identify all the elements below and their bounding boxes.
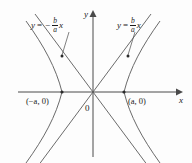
left-eq-numerator: b	[52, 17, 58, 25]
left-eq-minus-sign: −	[44, 21, 51, 30]
leader-line-left	[62, 32, 69, 55]
origin-label: 0	[85, 104, 90, 113]
hyperbola-canvas	[0, 0, 192, 163]
vertex-dot-right	[122, 90, 125, 93]
left-eq-x: x	[59, 21, 63, 30]
leader-dot-right	[127, 55, 130, 58]
hyperbola-figure: y = − b a x y = b a x y x (−a, 0) (a, 0)…	[0, 0, 192, 163]
leader-dot-left	[61, 55, 64, 58]
right-eq-numerator: b	[130, 17, 136, 25]
left-eq-denominator: a	[52, 25, 58, 34]
right-eq-denominator: a	[130, 25, 136, 34]
left-eq-equals: =	[36, 21, 43, 30]
left-eq-fraction: b a	[52, 17, 58, 34]
leader-line-group	[62, 32, 135, 55]
left-vertex-label: (−a, 0)	[26, 97, 49, 106]
left-asymptote-equation: y = − b a x	[31, 17, 63, 34]
right-eq-fraction: b a	[130, 17, 136, 34]
left-eq-y: y	[31, 21, 35, 30]
y-axis-label: y	[84, 10, 88, 19]
vertex-dot-left	[60, 90, 63, 93]
right-vertex-label: (a, 0)	[128, 97, 146, 106]
y-axis-arrowhead	[90, 10, 97, 17]
right-eq-equals: =	[122, 21, 129, 30]
x-axis-label: x	[179, 96, 183, 105]
right-eq-x: x	[137, 21, 141, 30]
right-asymptote-equation: y = b a x	[117, 17, 141, 34]
right-eq-y: y	[117, 21, 121, 30]
